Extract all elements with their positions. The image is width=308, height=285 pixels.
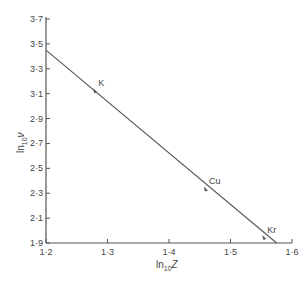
y-tick-label: 2·5	[30, 163, 43, 173]
y-tick-label: 2·7	[30, 138, 43, 148]
y-tick-label: 3·7	[30, 14, 43, 24]
y-tick-label: 3·1	[30, 89, 43, 99]
y-tick-label: 3·3	[30, 64, 43, 74]
data-point-label: Cu	[209, 176, 221, 186]
data-point-marker	[262, 235, 266, 240]
y-tick-label: 2·9	[30, 114, 43, 124]
y-axis-label: ln10ν	[15, 132, 28, 153]
data-point-label: Kr	[267, 225, 276, 235]
axes	[46, 17, 292, 243]
data-point-marker	[204, 186, 208, 191]
data-point-label: K	[98, 78, 104, 88]
x-tick-label: 1·4	[162, 247, 175, 257]
y-tick-label: 2·1	[30, 213, 43, 223]
x-axis-ticks: 1·21·31·41·51·6	[39, 239, 298, 257]
data-points: KCuKr	[93, 78, 276, 240]
x-tick-label: 1·6	[285, 247, 298, 257]
y-tick-label: 1·9	[30, 238, 43, 248]
chart: 1·21·31·41·51·6 1·92·12·32·52·72·93·13·3…	[0, 0, 308, 285]
y-axis-ticks: 1·92·12·32·52·72·93·13·33·53·7	[30, 14, 50, 248]
fit-line	[46, 50, 277, 243]
x-axis-label: ln10Z	[156, 259, 179, 272]
x-tick-label: 1·2	[39, 247, 52, 257]
y-tick-label: 3·5	[30, 39, 43, 49]
y-tick-label: 2·3	[30, 188, 43, 198]
series-line	[46, 50, 277, 243]
x-tick-label: 1·3	[101, 247, 114, 257]
x-tick-label: 1·5	[224, 247, 237, 257]
